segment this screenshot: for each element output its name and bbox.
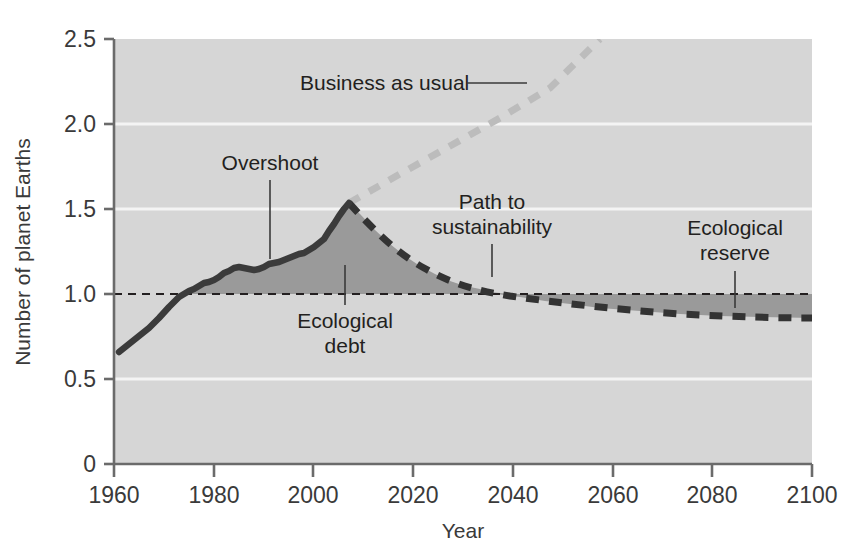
annotation-overshoot-label: Overshoot — [222, 151, 319, 174]
annotation-business-as-usual-label: Business as usual — [300, 71, 469, 94]
ytick-label-1.5: 1.5 — [64, 196, 96, 222]
xtick-label-2040: 2040 — [487, 482, 538, 508]
xtick-label-1960: 1960 — [88, 482, 139, 508]
ytick-label-1.0: 1.0 — [64, 281, 96, 307]
ecological-footprint-chart: 0 0.5 1.0 1.5 2.0 2.5 1960 1980 2000 202… — [0, 0, 856, 559]
ytick-label-2.5: 2.5 — [64, 26, 96, 52]
x-axis-title: Year — [442, 519, 484, 542]
xtick-label-2080: 2080 — [686, 482, 737, 508]
annotation-ecological-debt-label-line2: debt — [325, 334, 366, 357]
annotation-ecological-reserve-label-line1: Ecological — [687, 216, 783, 239]
annotation-path-to-sustainability-label-line2: sustainability — [432, 215, 553, 238]
chart-figure: 0 0.5 1.0 1.5 2.0 2.5 1960 1980 2000 202… — [0, 0, 856, 559]
xtick-label-2100: 2100 — [786, 482, 837, 508]
ytick-label-2.0: 2.0 — [64, 111, 96, 137]
xtick-label-1980: 1980 — [188, 482, 239, 508]
y-axis-ticks — [104, 39, 114, 464]
xtick-label-2060: 2060 — [587, 482, 638, 508]
xtick-label-2000: 2000 — [287, 482, 338, 508]
x-axis-ticks — [114, 464, 812, 477]
xtick-label-2020: 2020 — [387, 482, 438, 508]
ytick-label-0: 0 — [83, 451, 96, 477]
annotation-ecological-reserve-label-line2: reserve — [700, 241, 770, 264]
annotation-path-to-sustainability-label-line1: Path to — [459, 190, 526, 213]
ytick-label-0.5: 0.5 — [64, 366, 96, 392]
annotation-ecological-debt-label-line1: Ecological — [297, 309, 393, 332]
y-axis-title: Number of planet Earths — [11, 138, 34, 366]
